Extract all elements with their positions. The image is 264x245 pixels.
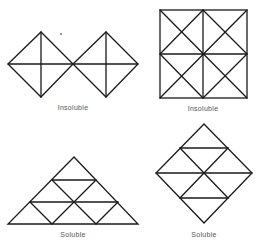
diamond-figure xyxy=(156,124,252,223)
square-grid-figure xyxy=(160,10,247,98)
figure-label-triangle: Soluble xyxy=(60,231,85,238)
two-diamonds-figure xyxy=(8,32,138,97)
figure-label-two-diamonds: Insoluble xyxy=(58,104,89,111)
diagram-canvas xyxy=(0,0,264,245)
figure-label-diamond: Soluble xyxy=(191,231,216,238)
triangle-figure xyxy=(8,157,138,224)
figure-label-square-grid: Insoluble xyxy=(188,105,219,112)
